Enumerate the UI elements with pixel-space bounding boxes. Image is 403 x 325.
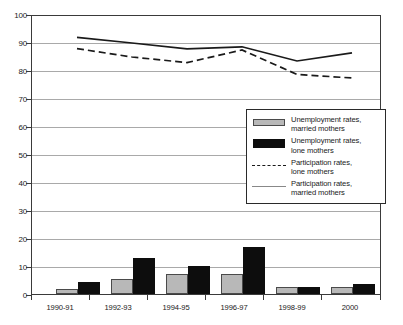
x-tick-label-2000: 2000 bbox=[324, 303, 376, 312]
legend-item-participation-lone: Participation rates, lone mothers bbox=[251, 158, 381, 176]
legend-item-unemployment-married: Unemployment rates, married mothers bbox=[251, 115, 381, 133]
gridline bbox=[32, 211, 380, 212]
y-tick-label: 80 bbox=[1, 67, 27, 76]
y-tick-label: 60 bbox=[1, 123, 27, 132]
legend-label-unemployment-married: Unemployment rates, married mothers bbox=[291, 115, 361, 133]
legend-label-line2: married mothers bbox=[291, 124, 345, 133]
x-tick-mark bbox=[205, 295, 206, 300]
x-tick-label-1996-97: 1996-97 bbox=[208, 303, 260, 312]
y-tick-label: 20 bbox=[1, 235, 27, 244]
legend-swatch-gray-box-icon bbox=[251, 116, 287, 130]
gridline bbox=[32, 43, 380, 44]
x-tick-mark bbox=[380, 295, 381, 300]
legend-label-line2: lone mothers bbox=[291, 146, 334, 155]
bar-married-1996-97 bbox=[221, 274, 243, 294]
legend-label-line1: Participation rates, bbox=[291, 158, 352, 167]
legend-label-participation-married: Participation rates, married mothers bbox=[291, 179, 352, 197]
legend-label-line1: Participation rates, bbox=[291, 179, 352, 188]
y-tick-label: 90 bbox=[1, 39, 27, 48]
legend-label-line1: Unemployment rates, bbox=[291, 115, 361, 124]
legend-swatch-black-box-icon bbox=[251, 137, 287, 151]
x-tick-label-1990-91: 1990-91 bbox=[34, 303, 86, 312]
x-tick-label-1992-93: 1992-93 bbox=[92, 303, 144, 312]
bar-lone-2000 bbox=[353, 284, 375, 294]
legend-swatch-solid-line-icon bbox=[251, 180, 287, 194]
y-tick-label: 70 bbox=[1, 95, 27, 104]
bar-lone-1990-91 bbox=[78, 282, 100, 294]
y-tick-label: 50 bbox=[1, 151, 27, 160]
x-tick-label-1994-95: 1994-95 bbox=[150, 303, 202, 312]
legend-label-line2: married mothers bbox=[291, 188, 345, 197]
bar-married-1992-93 bbox=[111, 279, 133, 294]
y-tick-label: 0 bbox=[1, 291, 27, 300]
bar-married-2000 bbox=[331, 287, 353, 294]
y-tick-label: 40 bbox=[1, 179, 27, 188]
gridline bbox=[32, 99, 380, 100]
chart-container: 100 90 80 70 60 50 40 30 20 10 0 bbox=[0, 0, 403, 325]
y-tick-label: 100 bbox=[1, 11, 27, 20]
x-tick-mark bbox=[31, 295, 32, 300]
bar-married-1998-99 bbox=[276, 287, 298, 294]
bar-married-1994-95 bbox=[166, 274, 188, 294]
bar-lone-1992-93 bbox=[133, 258, 155, 294]
legend-item-participation-married: Participation rates, married mothers bbox=[251, 179, 381, 197]
bar-lone-1998-99 bbox=[298, 287, 320, 294]
legend-item-unemployment-lone: Unemployment rates, lone mothers bbox=[251, 136, 381, 154]
gridline bbox=[32, 239, 380, 240]
x-tick-mark bbox=[321, 295, 322, 300]
bar-lone-1994-95 bbox=[188, 266, 210, 294]
x-tick-mark bbox=[263, 295, 264, 300]
bar-lone-1996-97 bbox=[243, 247, 265, 294]
legend-label-line2: lone mothers bbox=[291, 167, 334, 176]
y-tick-label: 30 bbox=[1, 207, 27, 216]
legend-swatch-dashed-line-icon bbox=[251, 159, 287, 173]
y-tick-label: 10 bbox=[1, 263, 27, 272]
bar-married-1990-91 bbox=[56, 289, 78, 294]
legend-label-unemployment-lone: Unemployment rates, lone mothers bbox=[291, 136, 361, 154]
x-tick-mark bbox=[147, 295, 148, 300]
x-tick-label-1998-99: 1998-99 bbox=[266, 303, 318, 312]
legend-label-participation-lone: Participation rates, lone mothers bbox=[291, 158, 352, 176]
x-tick-mark bbox=[89, 295, 90, 300]
chart-legend: Unemployment rates, married mothers Unem… bbox=[246, 109, 386, 204]
gridline bbox=[32, 71, 380, 72]
legend-label-line1: Unemployment rates, bbox=[291, 136, 361, 145]
